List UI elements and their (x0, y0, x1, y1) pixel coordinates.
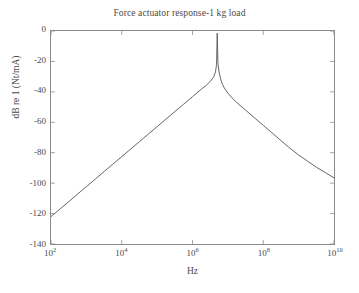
y-tick-label: -100 (30, 179, 47, 188)
chart-figure: Force actuator response-1 kg load dB re … (0, 0, 359, 293)
y-tick-label: -40 (34, 86, 46, 95)
y-axis-label: dB re 1 (Nt/mA) (11, 27, 21, 147)
y-tick-label: -20 (34, 56, 46, 65)
y-tick-label: -120 (30, 209, 47, 218)
x-tick-label: 1010 (327, 249, 343, 258)
x-axis-label: Hz (50, 266, 335, 276)
response-curve (51, 33, 334, 216)
x-tick-label: 102 (44, 249, 56, 258)
y-tick-label: -60 (34, 117, 46, 126)
y-tick-label: -80 (34, 148, 46, 157)
chart-title: Force actuator response-1 kg load (0, 8, 359, 18)
y-tick-label: 0 (42, 25, 47, 34)
axis-tick-marks (51, 31, 334, 244)
x-tick-label: 104 (115, 249, 127, 258)
plot-area (50, 30, 335, 245)
x-tick-label: 108 (258, 249, 270, 258)
response-curve-svg (51, 31, 334, 244)
x-tick-label: 106 (186, 249, 198, 258)
